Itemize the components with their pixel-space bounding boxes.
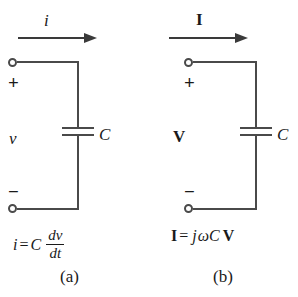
equation-b-omega-term: ω xyxy=(198,228,209,244)
terminal-node-top-a xyxy=(8,58,17,67)
wire-bottom-b xyxy=(193,208,257,210)
polarity-plus-b: + xyxy=(184,73,195,92)
voltage-label-b: V xyxy=(173,128,185,145)
panel-caption-b: (b) xyxy=(213,268,233,285)
polarity-minus-b: − xyxy=(184,182,195,201)
equation-a-lhs: i xyxy=(13,237,17,253)
capacitor-label-b: C xyxy=(277,126,288,143)
current-arrow-shaft-b xyxy=(169,37,237,39)
capacitor-plate-top-a xyxy=(62,127,94,129)
equation-b-c-term: C xyxy=(209,228,220,244)
polarity-plus-a: + xyxy=(8,73,19,92)
wire-top-b xyxy=(193,61,257,63)
capacitor-figure: i C + − v i = C dv dt xyxy=(0,0,298,297)
equation-b-lhs: I xyxy=(171,228,177,244)
voltage-label-a: v xyxy=(9,130,17,147)
equation-b-j-term: j xyxy=(192,228,196,244)
capacitor-label-a: C xyxy=(99,126,110,143)
current-arrow-shaft-a xyxy=(18,37,86,39)
wire-right-lower-a xyxy=(77,136,79,210)
terminal-node-top-b xyxy=(184,58,193,67)
current-arrow-head-b xyxy=(235,33,248,43)
wire-bottom-a xyxy=(17,208,79,210)
capacitor-plate-top-b xyxy=(240,127,272,129)
wire-right-lower-b xyxy=(255,136,257,210)
current-label-a: i xyxy=(44,12,49,29)
equation-b: I = j ω C V xyxy=(170,228,235,244)
terminal-node-bottom-b xyxy=(184,204,193,213)
wire-right-upper-b xyxy=(255,61,257,127)
equation-a-numerator: dv xyxy=(46,228,64,244)
current-label-b: I xyxy=(196,11,203,28)
equation-a-denominator: dt xyxy=(47,245,63,261)
panel-caption-a: (a) xyxy=(60,268,79,285)
equation-a: i = C dv dt xyxy=(12,228,64,261)
polarity-minus-a: − xyxy=(8,182,19,201)
equation-b-rhs: V xyxy=(223,228,235,244)
wire-right-upper-a xyxy=(77,61,79,127)
panel-time-domain: i C + − v i = C dv dt xyxy=(0,0,149,297)
panel-phasor-domain: I C + − V I = j ω C V xyxy=(149,0,298,297)
wire-top-a xyxy=(17,61,79,63)
terminal-node-bottom-a xyxy=(8,204,17,213)
equation-a-coefficient: C xyxy=(30,237,41,253)
current-arrow-head-a xyxy=(84,33,97,43)
equation-a-fraction: dv dt xyxy=(46,228,64,261)
equation-b-equals: = xyxy=(179,228,188,244)
equation-a-equals: = xyxy=(19,237,28,253)
